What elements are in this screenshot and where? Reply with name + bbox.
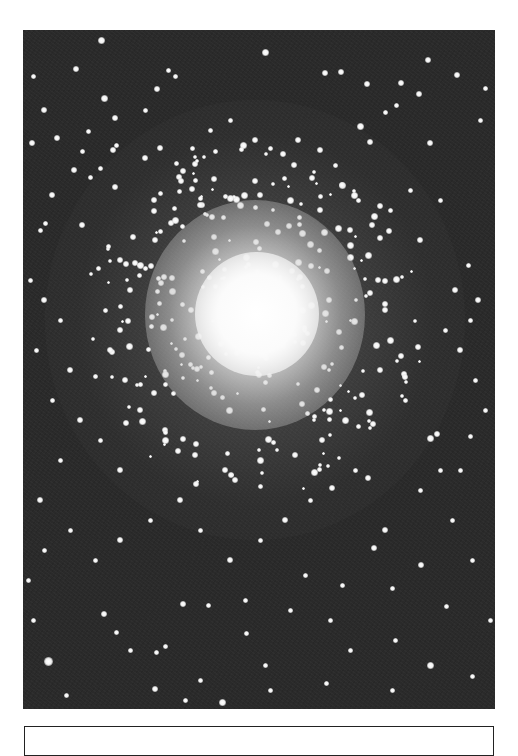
star — [177, 189, 182, 194]
star — [127, 405, 131, 409]
star — [382, 301, 388, 307]
star — [42, 548, 47, 553]
star — [211, 319, 215, 323]
star — [208, 128, 213, 133]
star — [364, 294, 368, 298]
star — [180, 436, 186, 442]
star — [101, 611, 107, 617]
star — [271, 182, 275, 186]
star — [288, 608, 293, 613]
star — [373, 342, 380, 349]
star — [203, 212, 207, 216]
star — [54, 135, 60, 141]
star — [353, 468, 358, 473]
star — [192, 172, 195, 175]
star — [321, 364, 327, 370]
star — [200, 269, 205, 274]
star — [264, 221, 270, 227]
star — [386, 228, 392, 234]
star — [192, 452, 198, 458]
star — [169, 275, 175, 281]
star — [195, 333, 202, 340]
star — [434, 431, 440, 437]
star — [34, 348, 39, 353]
star — [473, 378, 478, 383]
star — [308, 498, 313, 503]
star — [93, 558, 98, 563]
star — [366, 409, 373, 416]
star — [452, 287, 458, 293]
star — [299, 230, 306, 237]
star — [180, 224, 185, 229]
star — [390, 586, 395, 591]
caption-box — [24, 726, 494, 756]
star — [209, 214, 215, 220]
star — [67, 367, 73, 373]
star — [259, 354, 263, 358]
star — [466, 263, 471, 268]
star — [377, 367, 383, 373]
star — [161, 274, 167, 280]
star — [180, 601, 186, 607]
star — [152, 686, 158, 692]
star — [198, 528, 203, 533]
star — [365, 475, 371, 481]
star — [58, 458, 63, 463]
star — [327, 368, 331, 372]
star — [475, 297, 481, 303]
star — [354, 235, 357, 238]
star — [110, 147, 116, 153]
star — [305, 411, 310, 416]
star — [107, 347, 113, 353]
star — [173, 74, 178, 79]
star — [309, 175, 315, 181]
star — [272, 261, 279, 268]
star — [198, 678, 203, 683]
star — [73, 66, 79, 72]
star — [322, 452, 325, 455]
star — [249, 329, 254, 334]
star — [271, 208, 275, 212]
star — [275, 448, 279, 452]
star — [257, 246, 262, 251]
star — [478, 118, 483, 123]
star — [222, 467, 228, 473]
star — [266, 327, 272, 333]
star — [179, 352, 185, 358]
star — [365, 252, 372, 259]
star — [149, 455, 152, 458]
star — [329, 485, 335, 491]
star — [213, 284, 218, 289]
star — [211, 176, 217, 182]
star — [227, 557, 233, 563]
star — [166, 68, 171, 73]
star — [317, 248, 322, 253]
star — [339, 384, 342, 387]
star — [425, 57, 431, 63]
star — [398, 80, 404, 86]
star — [305, 331, 310, 336]
star — [282, 517, 288, 523]
star — [247, 316, 250, 319]
star — [137, 262, 144, 269]
star — [291, 162, 297, 168]
star — [257, 457, 264, 464]
star — [394, 103, 399, 108]
star — [180, 168, 186, 174]
star — [137, 407, 143, 413]
star — [417, 237, 423, 243]
star — [347, 242, 354, 249]
star — [206, 603, 211, 608]
star — [263, 353, 268, 358]
star — [333, 163, 338, 168]
star — [268, 688, 273, 693]
star — [235, 348, 241, 354]
star — [154, 650, 159, 655]
star — [261, 407, 266, 412]
star — [438, 198, 443, 203]
star — [157, 301, 162, 306]
star — [232, 333, 236, 337]
star — [327, 417, 332, 422]
star — [239, 312, 246, 319]
star — [342, 417, 349, 424]
